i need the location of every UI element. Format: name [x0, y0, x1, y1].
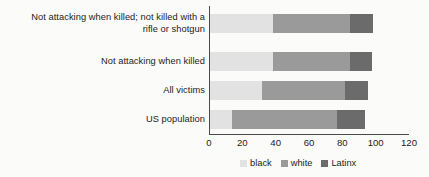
bar-segment-black — [210, 110, 232, 129]
bar-row — [210, 52, 372, 71]
bar-segment-white — [232, 110, 337, 129]
bar-segment-Latinx — [345, 81, 368, 100]
legend-label: white — [291, 158, 313, 168]
plot-area: 020406080100120 — [209, 0, 429, 140]
x-axis-line — [209, 134, 409, 135]
legend-label: black — [250, 158, 272, 168]
legend-swatch-icon — [281, 160, 288, 167]
category-label-2: All victims — [163, 85, 205, 97]
bar-segment-white — [262, 81, 345, 100]
bar-segment-Latinx — [350, 14, 373, 33]
legend-item-black[interactable]: black — [240, 158, 272, 168]
bar-segment-black — [210, 14, 273, 33]
legend-item-Latinx[interactable]: Latinx — [321, 158, 356, 168]
bar-segment-white — [273, 52, 350, 71]
bar-segment-white — [273, 14, 350, 33]
bar-segment-black — [210, 52, 273, 71]
category-label-3: US population — [146, 114, 205, 126]
x-tick-0: 0 — [206, 137, 211, 148]
x-tick-40: 40 — [270, 137, 281, 148]
bar-segment-Latinx — [350, 52, 372, 71]
chart-legend: blackwhiteLatinx — [240, 158, 356, 168]
x-tick-80: 80 — [337, 137, 348, 148]
legend-swatch-icon — [321, 160, 328, 167]
x-tick-120: 120 — [401, 137, 417, 148]
bar-row — [210, 14, 373, 33]
stacked-bar-chart: Not attacking when killed; not killed wi… — [0, 0, 429, 177]
legend-swatch-icon — [240, 160, 247, 167]
category-label-0: Not attacking when killed; not killed wi… — [31, 12, 205, 35]
x-tick-20: 20 — [237, 137, 248, 148]
bar-row — [210, 110, 365, 129]
x-tick-100: 100 — [368, 137, 384, 148]
x-tick-60: 60 — [304, 137, 315, 148]
bar-segment-Latinx — [337, 110, 365, 129]
bar-row — [210, 81, 368, 100]
legend-label: Latinx — [331, 158, 356, 168]
bar-segment-black — [210, 81, 262, 100]
category-label-1: Not attacking when killed — [101, 56, 205, 68]
legend-item-white[interactable]: white — [281, 158, 313, 168]
